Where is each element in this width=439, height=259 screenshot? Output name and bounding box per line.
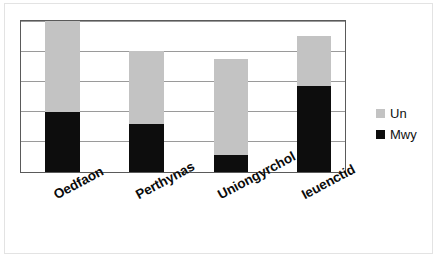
bar-ieuenctid[interactable] bbox=[297, 21, 331, 172]
stacked-bar-chart: Oedfaon Perthynas Uniongyrchol Ieuenctid… bbox=[0, 0, 439, 259]
bar-segment-mwy[interactable] bbox=[297, 86, 331, 172]
plot-area bbox=[20, 20, 346, 173]
chart-legend: Un Mwy bbox=[376, 103, 436, 145]
bar-segment-un[interactable] bbox=[129, 51, 164, 123]
bar-segment-mwy[interactable] bbox=[45, 112, 80, 172]
bar-segment-mwy[interactable] bbox=[129, 124, 164, 172]
bar-segment-mwy[interactable] bbox=[214, 155, 248, 172]
chart-screenshot: Oedfaon Perthynas Uniongyrchol Ieuenctid… bbox=[0, 0, 439, 259]
legend-label-un: Un bbox=[390, 107, 407, 120]
bar-segment-un[interactable] bbox=[45, 21, 80, 112]
legend-item-mwy[interactable]: Mwy bbox=[376, 124, 436, 145]
black-square-swatch bbox=[376, 130, 385, 139]
bar-uniongyrchol[interactable] bbox=[214, 21, 248, 172]
legend-item-un[interactable]: Un bbox=[376, 103, 436, 124]
gray-square-swatch bbox=[376, 109, 385, 118]
bar-segment-un[interactable] bbox=[214, 59, 248, 156]
legend-label-mwy: Mwy bbox=[390, 128, 417, 141]
bar-perthynas[interactable] bbox=[129, 21, 164, 172]
bar-segment-un[interactable] bbox=[297, 36, 331, 86]
bars-layer bbox=[21, 21, 345, 172]
bar-oedfaon[interactable] bbox=[45, 21, 80, 172]
